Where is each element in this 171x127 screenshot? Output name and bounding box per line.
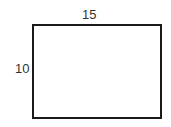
width-label: 15 xyxy=(82,8,96,21)
rectangle-shape xyxy=(32,24,162,119)
height-label: 10 xyxy=(15,62,29,75)
